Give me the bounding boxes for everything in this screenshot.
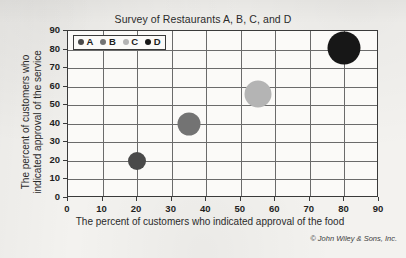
gridline-horizontal bbox=[68, 124, 377, 125]
copyright-notice: © John Wiley & Sons, Inc. bbox=[310, 234, 397, 243]
legend-item-a[interactable]: A bbox=[78, 37, 93, 47]
legend-label: A bbox=[87, 37, 94, 47]
legend-marker-icon bbox=[100, 39, 106, 45]
legend-label: B bbox=[109, 37, 116, 47]
y-tick-mark bbox=[63, 160, 67, 161]
x-tick-mark bbox=[309, 197, 310, 201]
x-tick-mark bbox=[102, 197, 103, 201]
gridline-horizontal bbox=[68, 68, 377, 69]
x-tick-mark bbox=[378, 197, 379, 201]
gridline-vertical bbox=[172, 31, 173, 196]
y-tick-mark bbox=[63, 123, 67, 124]
x-tick-label: 10 bbox=[89, 203, 115, 214]
x-tick-label: 70 bbox=[296, 203, 322, 214]
gridline-vertical bbox=[137, 31, 138, 196]
gridline-vertical bbox=[310, 31, 311, 196]
y-axis-label-line-2: indicated approval of the service bbox=[32, 27, 44, 217]
gridline-horizontal bbox=[68, 179, 377, 180]
chart-title: Survey of Restaurants A, B, C, and D bbox=[0, 13, 406, 25]
x-tick-mark bbox=[274, 197, 275, 201]
y-tick-mark bbox=[63, 197, 67, 198]
x-tick-label: 50 bbox=[227, 203, 253, 214]
x-tick-mark bbox=[171, 197, 172, 201]
legend-label: D bbox=[154, 37, 161, 47]
x-tick-mark bbox=[67, 197, 68, 201]
gridline-vertical bbox=[103, 31, 104, 196]
gridline-horizontal bbox=[68, 87, 377, 88]
data-point-c[interactable] bbox=[245, 81, 272, 108]
y-tick-mark bbox=[63, 104, 67, 105]
y-axis-label-line-1: The percent of customers who bbox=[20, 27, 32, 217]
gridline-vertical bbox=[241, 31, 242, 196]
gridline-horizontal bbox=[68, 161, 377, 162]
y-tick-mark bbox=[63, 49, 67, 50]
x-tick-mark bbox=[343, 197, 344, 201]
data-point-d[interactable] bbox=[328, 31, 361, 64]
y-tick-mark bbox=[63, 30, 67, 31]
y-tick-mark bbox=[63, 141, 67, 142]
x-tick-label: 30 bbox=[158, 203, 184, 214]
legend-marker-icon bbox=[78, 39, 84, 45]
gridline-horizontal bbox=[68, 142, 377, 143]
legend-item-c[interactable]: C bbox=[123, 37, 138, 47]
chart-legend: ABCD bbox=[73, 35, 166, 50]
y-tick-mark bbox=[63, 178, 67, 179]
x-axis-label: The percent of customers who indicated a… bbox=[40, 216, 380, 227]
x-tick-mark bbox=[240, 197, 241, 201]
x-tick-label: 20 bbox=[123, 203, 149, 214]
data-point-a[interactable] bbox=[128, 152, 146, 170]
x-tick-mark bbox=[136, 197, 137, 201]
gridline-vertical bbox=[275, 31, 276, 196]
x-tick-label: 80 bbox=[330, 203, 356, 214]
x-tick-label: 40 bbox=[192, 203, 218, 214]
y-tick-mark bbox=[63, 86, 67, 87]
legend-label: C bbox=[131, 37, 138, 47]
plot-area: ABCD bbox=[67, 30, 378, 197]
x-tick-mark bbox=[205, 197, 206, 201]
gridline-horizontal bbox=[68, 105, 377, 106]
legend-item-d[interactable]: D bbox=[145, 37, 160, 47]
legend-item-b[interactable]: B bbox=[100, 37, 115, 47]
data-point-b[interactable] bbox=[177, 112, 200, 135]
x-tick-label: 60 bbox=[261, 203, 287, 214]
legend-marker-icon bbox=[145, 39, 151, 45]
chart-figure: Survey of Restaurants A, B, C, and D ABC… bbox=[0, 0, 406, 258]
legend-marker-icon bbox=[123, 39, 129, 45]
y-axis-label: The percent of customers who indicated a… bbox=[20, 27, 44, 217]
y-tick-mark bbox=[63, 67, 67, 68]
x-tick-label: 90 bbox=[365, 203, 391, 214]
x-tick-label: 0 bbox=[54, 203, 80, 214]
gridline-vertical bbox=[206, 31, 207, 196]
